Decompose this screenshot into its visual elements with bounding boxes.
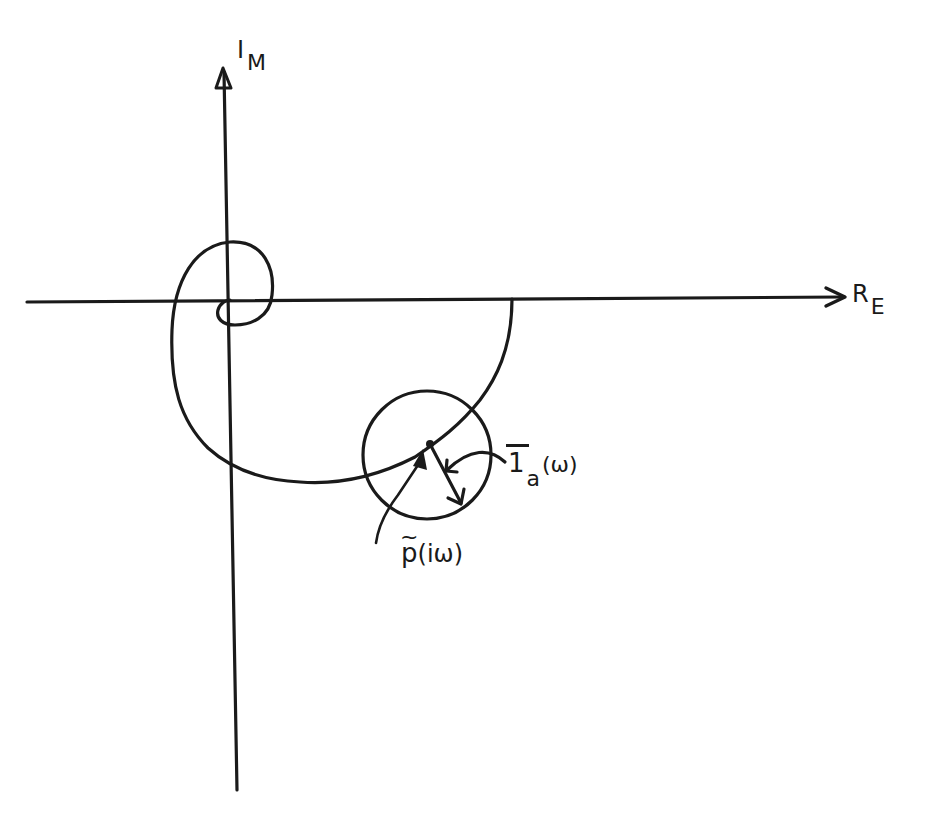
imaginary-axis-label-subscript: M [247, 50, 266, 75]
imaginary-axis [224, 72, 237, 790]
point-label-argument: (iω) [418, 540, 464, 568]
vector-label: 1a(ω) [508, 448, 578, 478]
vector-label-subscript: a [527, 466, 540, 491]
real-axis-label: RE [852, 280, 883, 308]
imaginary-axis-label: IM [237, 36, 263, 64]
vector-label-argument: (ω) [542, 452, 578, 477]
center-point [426, 440, 434, 448]
point-label: ~p(iω) [401, 538, 463, 568]
tilde-mark: ~ [400, 524, 418, 549]
real-axis [27, 297, 842, 302]
real-axis-label-main: R [852, 280, 869, 308]
vector-label-leader [447, 452, 505, 470]
real-axis-label-subscript: E [871, 294, 885, 319]
imaginary-axis-label-main: I [237, 36, 244, 64]
vector-label-main: 1 [508, 448, 525, 478]
nyquist-diagram [0, 0, 936, 828]
nyquist-curve [172, 242, 512, 483]
